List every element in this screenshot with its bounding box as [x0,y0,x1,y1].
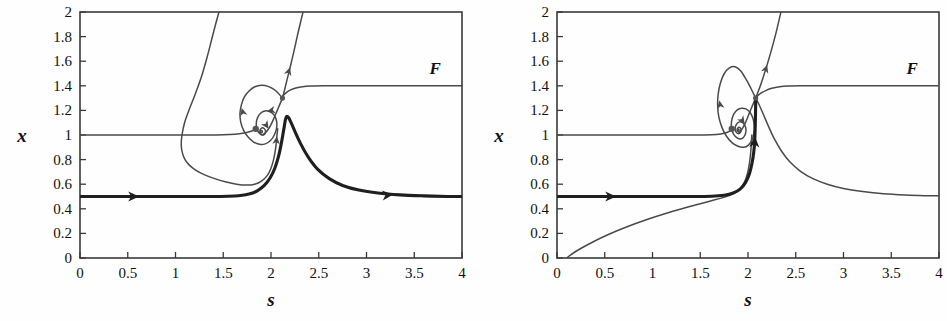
y-tick-label: 1.4 [53,78,72,94]
y-tick-label: 1.8 [530,29,549,45]
trajectories [80,12,462,197]
y-tick-label: 1.2 [530,102,549,118]
y-tick-label: 0.8 [53,152,72,168]
x-tick-label: 1 [172,265,180,281]
y-tick-label: 0.2 [53,225,72,241]
y-tick-label: 1 [542,127,550,143]
y-tick-label: 0.6 [530,176,549,192]
equilibrium-stable-focus [253,126,259,132]
x-axis-ticks [557,252,939,258]
trajectory-unstable-branch-upper-right [756,12,781,98]
equilibrium-markers [253,96,286,133]
curve-annotations: F [906,59,919,78]
trajectory-incoming-level-x1 [557,129,732,135]
phase-portrait-panel-left: 00.511.522.533.54 00.20.40.60.811.21.41.… [0,0,470,321]
x-tick-label: 2.5 [786,265,805,281]
trajectory-separatrix-F-upper [282,86,462,98]
x-tick-label: 2 [267,265,275,281]
x-tick-label: 1.5 [214,265,233,281]
x-axis-ticks [80,252,462,258]
equilibrium-saddle [280,96,285,101]
x-tick-label: 2 [744,265,752,281]
trajectory-main-orbit-thick [80,116,462,196]
y-tick-label: 0 [65,250,73,266]
x-tick-label: 0.5 [595,265,614,281]
y-tick-label: 0.8 [530,152,549,168]
trajectory-main-orbit-thick [557,98,756,196]
trajectory-unstable-branch-upper-right [282,12,303,98]
y-tick-label: 0.6 [53,176,72,192]
y-tick-label: 1.2 [53,102,72,118]
y-tick-label: 2 [542,4,550,20]
trajectory-descending-right-branch [756,98,939,196]
x-tick-label: 0 [76,265,84,281]
trajectory-unstable-branch-upper-left [181,12,277,185]
y-axis-title: x [493,125,504,146]
x-axis-title: s [743,289,751,310]
x-tick-label: 3 [363,265,371,281]
curve-label-F: F [429,59,442,78]
x-tick-label: 3.5 [882,265,901,281]
y-tick-label: 0.4 [53,201,72,217]
trajectories [557,12,939,258]
trajectory-incoming-level-x1 [80,129,255,135]
y-tick-label: 1.4 [530,78,549,94]
y-tick-label: 1.6 [530,53,549,69]
plot-svg-right: 00.511.522.533.54 00.20.40.60.811.21.41.… [477,0,947,321]
curve-label-F: F [906,59,919,78]
phase-portrait-panel-right: 00.511.522.533.54 00.20.40.60.811.21.41.… [477,0,947,321]
figure-root: 00.511.522.533.54 00.20.40.60.811.21.41.… [0,0,947,321]
curve-annotations: F [429,59,442,78]
y-axis-tick-labels: 00.20.40.60.811.21.41.61.82 [530,4,549,266]
plot-svg-left: 00.511.522.533.54 00.20.40.60.811.21.41.… [0,0,470,321]
x-tick-label: 3.5 [405,265,424,281]
x-axis-title: s [266,289,274,310]
x-tick-label: 0.5 [118,265,137,281]
y-tick-label: 1 [65,127,73,143]
x-tick-label: 3 [840,265,848,281]
x-tick-label: 4 [935,265,943,281]
x-tick-label: 1.5 [691,265,710,281]
y-tick-label: 0 [542,250,550,266]
trajectory-separatrix-F-upper [756,86,939,98]
x-tick-label: 1 [649,265,657,281]
y-tick-label: 1.6 [53,53,72,69]
flow-direction-arrow [761,64,771,74]
equilibrium-stable-focus [729,126,735,132]
x-tick-label: 4 [458,265,466,281]
y-tick-label: 1.8 [53,29,72,45]
x-tick-label: 0 [553,265,561,281]
y-tick-label: 0.2 [530,225,549,241]
plot-area-right: 00.511.522.533.54 00.20.40.60.811.21.41.… [493,4,943,310]
equilibrium-saddle [753,96,758,101]
y-tick-label: 2 [65,4,73,20]
y-tick-label: 0.4 [530,201,549,217]
y-axis-title: x [16,125,27,146]
x-tick-label: 2.5 [309,265,328,281]
x-axis-tick-labels: 00.511.522.533.54 [76,265,466,281]
x-axis-tick-labels: 00.511.522.533.54 [553,265,943,281]
y-axis-tick-labels: 00.20.40.60.811.21.41.61.82 [53,4,72,266]
plot-area-left: 00.511.522.533.54 00.20.40.60.811.21.41.… [16,4,466,310]
